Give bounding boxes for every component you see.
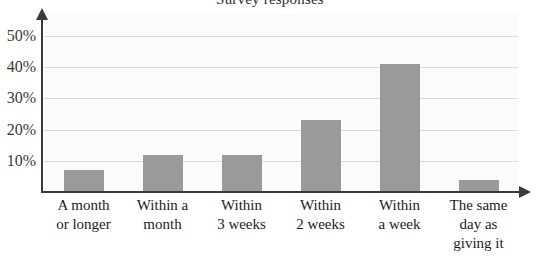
x-axis-category-label-line: a week — [360, 215, 439, 234]
x-axis-category-label-line: Within — [202, 196, 281, 215]
y-axis-tick-label: 30% — [0, 89, 36, 107]
x-axis-category-label: Within2 weeks — [281, 196, 360, 234]
x-axis-category-label: A monthor longer — [44, 196, 123, 234]
x-axis-category-label: Withina week — [360, 196, 439, 234]
gridline — [44, 130, 518, 131]
y-axis-tick-label: 10% — [0, 152, 36, 170]
x-axis-category-label-line: The same — [439, 196, 518, 215]
plot-area — [44, 14, 518, 192]
x-axis-category-label-line: Within — [360, 196, 439, 215]
x-axis-line — [41, 191, 521, 193]
chart-figure: Survey responses 10%20%30%40%50%A montho… — [0, 0, 540, 258]
y-axis-line — [41, 18, 43, 193]
gridline — [44, 98, 518, 99]
x-axis-category-label-line: Within — [281, 196, 360, 215]
bar — [64, 170, 104, 192]
y-axis-arrow-icon — [36, 8, 48, 20]
chart-title: Survey responses — [0, 0, 540, 8]
bar — [380, 64, 420, 192]
x-axis-category-label-line: giving it — [439, 234, 518, 253]
plot-inner — [44, 14, 518, 192]
x-axis-category-label-line: 3 weeks — [202, 215, 281, 234]
gridline — [44, 36, 518, 37]
x-axis-category-label-line: 2 weeks — [281, 215, 360, 234]
gridline — [44, 161, 518, 162]
x-axis-category-label-line: month — [123, 215, 202, 234]
y-axis-tick-label: 20% — [0, 121, 36, 139]
x-axis-category-label-line: day as — [439, 215, 518, 234]
x-axis-category-label: Within amonth — [123, 196, 202, 234]
x-axis-category-label: Within3 weeks — [202, 196, 281, 234]
x-axis-category-label: The sameday asgiving it — [439, 196, 518, 253]
x-axis-arrow-icon — [519, 186, 531, 198]
x-axis-category-label-line: A month — [44, 196, 123, 215]
x-axis-category-label-line: or longer — [44, 215, 123, 234]
y-axis-tick-label: 50% — [0, 27, 36, 45]
y-axis-tick-label: 40% — [0, 58, 36, 76]
bar — [222, 155, 262, 192]
bar — [143, 155, 183, 192]
gridline — [44, 67, 518, 68]
x-axis-category-label-line: Within a — [123, 196, 202, 215]
bar — [301, 120, 341, 192]
